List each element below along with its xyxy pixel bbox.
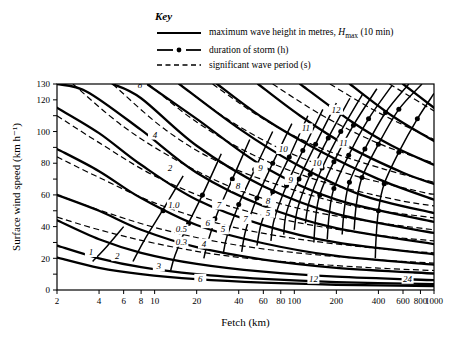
duration-label-duration-8: 8 xyxy=(266,196,271,206)
duration-dot-duration-5-1 xyxy=(236,202,241,207)
y-tick-label-120: 120 xyxy=(37,95,51,105)
y-tick-label-80: 80 xyxy=(41,158,51,168)
y-tick-label-130: 130 xyxy=(37,79,51,89)
duration-dot-duration-10-0 xyxy=(326,135,331,140)
curve-label-period-14: 16 xyxy=(373,68,383,78)
duration-label-duration-5: 5 xyxy=(221,224,226,234)
x-tick-label-60: 60 xyxy=(259,296,269,306)
duration-label-duration-11: 11 xyxy=(339,138,347,148)
curve-label-period-11: 11 xyxy=(302,123,310,133)
duration-label-duration-7: 7 xyxy=(243,214,248,224)
duration-dot-duration-16-0 xyxy=(383,110,388,115)
x-axis-label: Fetch (km) xyxy=(221,316,270,329)
duration-label-duration-2: 2 xyxy=(115,251,120,261)
duration-label-bg xyxy=(319,64,331,74)
x-tick-label-600: 600 xyxy=(396,296,410,306)
duration-label-duration-18: 18 xyxy=(347,27,357,37)
duration-dot-duration-14-2 xyxy=(331,186,336,191)
x-tick-label-2: 2 xyxy=(55,296,60,306)
curve-label-period-18: 24 xyxy=(384,33,394,43)
curve-label-period-9: 9 xyxy=(258,163,263,173)
duration-label-bg xyxy=(338,45,350,55)
duration-dot-duration-18-0 xyxy=(396,107,401,112)
curve-label-wave-height-4: 4 xyxy=(153,130,158,140)
duration-label-duration-12: 12 xyxy=(309,274,319,284)
curve-label-wave-height-2: 2 xyxy=(168,163,173,173)
duration-label-bg xyxy=(345,27,357,37)
y-tick-label-40: 40 xyxy=(41,222,51,232)
duration-label-duration-16: 16 xyxy=(339,45,349,55)
curve-label-period-8: 8 xyxy=(236,181,241,191)
duration-line-duration-24 xyxy=(375,94,434,259)
duration-dot-duration-4-0 xyxy=(230,177,235,182)
curve-label-period-7: 7 xyxy=(217,200,222,210)
duration-line-duration-2 xyxy=(133,176,183,262)
duration-label-duration-6: 6 xyxy=(198,274,203,284)
curve-label-bg xyxy=(370,68,384,78)
duration-dot-duration-12-1 xyxy=(331,159,336,164)
duration-dot-duration-3-0 xyxy=(200,192,205,197)
duration-label-duration-3: 3 xyxy=(156,261,162,271)
curve-label-wave-height-1.0: 1.0 xyxy=(168,200,180,210)
duration-label-duration-9: 9 xyxy=(288,175,293,185)
duration-dot-duration-16-2 xyxy=(347,180,352,185)
duration-dot-duration-12-2 xyxy=(317,192,322,197)
figure-root: Key maximum wave height in metres, Hmax … xyxy=(0,0,449,344)
y-tick-label-20: 20 xyxy=(41,254,51,264)
x-tick-label-20: 20 xyxy=(192,296,202,306)
duration-dot-duration-24-0 xyxy=(415,116,420,121)
duration-label-duration-14: 14 xyxy=(320,64,330,74)
duration-dot-duration-7-1 xyxy=(270,189,275,194)
curves-group: 0.30.51.02485678910111216202412345678910… xyxy=(57,27,434,287)
curve-label-period-10: 10 xyxy=(279,144,289,154)
x-tick-label-200: 200 xyxy=(330,296,344,306)
curve-label-bg xyxy=(382,33,396,43)
curve-label-wave-height-8: 8 xyxy=(138,80,143,90)
duration-label-duration-10: 10 xyxy=(313,158,323,168)
y-tick-label-0: 0 xyxy=(46,285,51,295)
fetch-wind-speed-chart: 0.30.51.02485678910111216202412345678910… xyxy=(0,0,449,344)
duration-dot-duration-2-0 xyxy=(161,208,166,213)
duration-dot-duration-9-1 xyxy=(296,177,301,182)
x-tick-label-10: 10 xyxy=(150,296,160,306)
duration-dot-duration-24-3 xyxy=(376,208,381,213)
x-tick-label-8: 8 xyxy=(139,296,144,306)
curve-period-18 xyxy=(389,84,434,111)
x-tick-label-400: 400 xyxy=(372,296,386,306)
x-tick-label-80: 80 xyxy=(276,296,286,306)
duration-dot-duration-16-1 xyxy=(362,146,367,151)
duration-dot-duration-9-0 xyxy=(313,142,318,147)
curve-period-11 xyxy=(179,84,434,194)
duration-dot-duration-14-1 xyxy=(346,153,351,158)
x-tick-label-100: 100 xyxy=(288,296,302,306)
duration-dot-duration-6-1 xyxy=(254,196,259,201)
duration-label-duration-4: 4 xyxy=(202,239,207,249)
y-axis-label: Surface wind speed (km h⁻¹) xyxy=(10,123,23,251)
x-tick-label-4: 4 xyxy=(97,296,102,306)
duration-dot-duration-6-0 xyxy=(270,161,275,166)
curve-label-wave-height-0.5: 0.5 xyxy=(176,224,188,234)
duration-label-duration-1: 1 xyxy=(89,247,94,257)
duration-dot-duration-10-1 xyxy=(308,172,313,177)
plot-area: 0.30.51.02485678910111216202412345678910… xyxy=(10,27,444,329)
duration-dot-duration-18-2 xyxy=(359,175,364,180)
duration-dot-duration-8-0 xyxy=(300,148,305,153)
duration-dot-duration-24-2 xyxy=(382,181,387,186)
x-tick-label-40: 40 xyxy=(234,296,244,306)
duration-label-duration-24: 24 xyxy=(403,274,413,284)
curve-label-period-12: 12 xyxy=(332,105,342,115)
curve-label-wave-height-0.3: 0.3 xyxy=(176,237,188,247)
duration-dot-duration-12-0 xyxy=(351,123,356,128)
curve-label-period-6: 6 xyxy=(206,218,211,228)
duration-dot-duration-14-0 xyxy=(366,116,371,121)
curve-label-period-5: 5 xyxy=(266,208,271,218)
x-tick-label-6: 6 xyxy=(121,296,126,306)
x-tick-label-1000: 1000 xyxy=(425,296,444,306)
duration-dot-duration-18-1 xyxy=(376,142,381,147)
duration-dot-duration-11-0 xyxy=(338,129,343,134)
curve-label-period-16: 20 xyxy=(354,47,364,57)
duration-dot-duration-24-1 xyxy=(396,150,401,155)
y-tick-label-100: 100 xyxy=(37,127,51,137)
y-tick-label-60: 60 xyxy=(41,190,51,200)
curve-label-bg xyxy=(352,47,366,57)
